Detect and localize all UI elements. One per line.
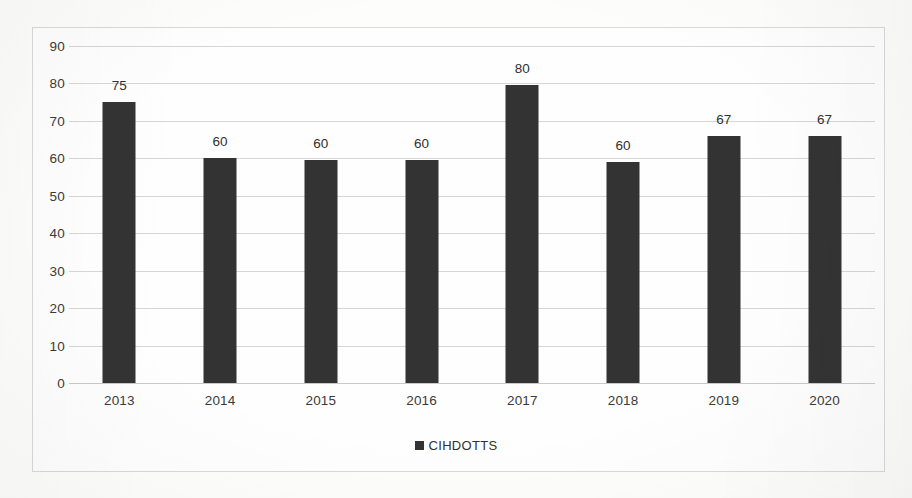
bar-slot-2019: 67 [674,46,775,383]
bar-2014[interactable] [204,158,237,383]
bar-value-label-2017: 80 [515,61,530,76]
gridline-0 [69,383,875,384]
bar-2018[interactable] [607,162,640,383]
bar-value-label-2016: 60 [414,136,429,151]
y-tick-label-0: 0 [57,376,65,391]
bar-2016[interactable] [405,160,438,383]
y-tick-label-40: 40 [50,226,65,241]
y-tick-label-30: 30 [50,263,65,278]
y-tick-label-90: 90 [50,39,65,54]
x-tick-label-2020: 2020 [809,393,840,408]
bar-2019[interactable] [707,136,740,383]
x-tick-label-2018: 2018 [608,393,639,408]
bar-value-label-2013: 75 [112,78,127,93]
bar-value-label-2019: 67 [716,112,731,127]
x-tick-label-2014: 2014 [205,393,236,408]
bar-value-label-2014: 60 [212,134,227,149]
x-tick-label-2015: 2015 [305,393,336,408]
bar-value-label-2018: 60 [615,138,630,153]
bar-slot-2015: 60 [271,46,372,383]
chart-page: 0102030405060708090 7560606080606767 201… [0,0,912,498]
y-tick-label-10: 10 [50,338,65,353]
bar-slot-2016: 60 [371,46,472,383]
bar-value-label-2020: 67 [817,112,832,127]
bar-2017[interactable] [506,85,539,383]
legend-label-cihdotts: CIHDOTTS [429,438,498,453]
y-tick-label-50: 50 [50,188,65,203]
bar-slot-2020: 67 [774,46,875,383]
x-tick-label-2016: 2016 [406,393,437,408]
bar-slot-2013: 75 [69,46,170,383]
y-tick-label-60: 60 [50,151,65,166]
x-tick-label-2013: 2013 [104,393,135,408]
bar-2020[interactable] [808,136,841,383]
bar-value-label-2015: 60 [313,136,328,151]
x-axis: 20132014201520162017201820192020 [69,393,875,417]
bar-series-cihdotts: 7560606080606767 [69,46,875,383]
x-tick-label-2017: 2017 [507,393,538,408]
y-tick-label-20: 20 [50,301,65,316]
bar-2013[interactable] [103,102,136,383]
y-tick-label-80: 80 [50,76,65,91]
bar-slot-2018: 60 [573,46,674,383]
chart-legend: CIHDOTTS [0,438,912,453]
bar-slot-2014: 60 [170,46,271,383]
y-axis: 0102030405060708090 [32,46,65,383]
x-tick-label-2019: 2019 [708,393,739,408]
bar-2015[interactable] [304,160,337,383]
legend-swatch-icon [415,441,424,450]
y-tick-label-70: 70 [50,113,65,128]
bar-slot-2017: 80 [472,46,573,383]
